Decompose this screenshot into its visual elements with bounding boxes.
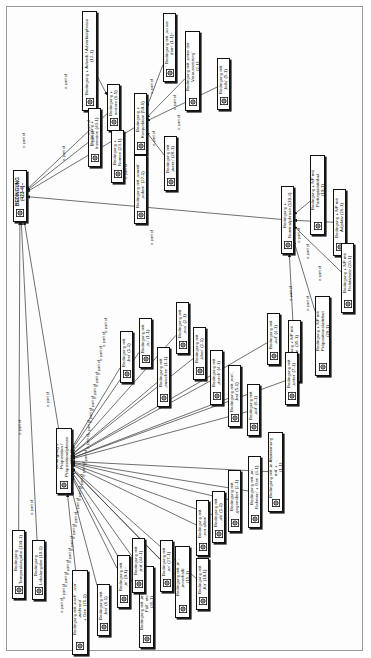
diagram-node[interactable]: Bedingung mit ‚aus‘ (2-1) (176, 302, 189, 354)
concept-node-icon (114, 170, 122, 178)
diagram-node[interactable]: Bedingung mit ‚so sei dem‘ (1-1)~ (163, 13, 176, 82)
edge-is-part-of (21, 222, 37, 540)
diagram-node[interactable]: Bedingung mit ‚für‘ (19-1) (196, 558, 209, 610)
concept-node-icon (319, 363, 327, 371)
node-label: Bedingung + Konjunktion (59-6) (135, 97, 145, 142)
diagram-node[interactable]: Bedingung mit ‚bei‘ (6-1) (97, 584, 110, 636)
diagram-node[interactable]: Bedingung mit ‚mit‘ (44-1) (132, 538, 145, 593)
concept-node-icon (86, 98, 94, 106)
edge-is-part-of (72, 412, 247, 459)
edge-is-part-of (27, 143, 88, 191)
diagram-node[interactable]: BEDINGUNG (423-4)~ (13, 170, 27, 222)
diagram-node[interactable]: Bedingung + Adverb / Adverbialphrase (12… (82, 11, 97, 111)
diagram-node[interactable]: Bedingung mit ‚von‘, ‚bei‘ (5-1) (228, 365, 241, 427)
diagram-node[interactable]: Bedingung mit ‚in‘, ‚innerhalb‘ (15-1) (175, 546, 190, 618)
edge-is-part-of (72, 398, 228, 457)
concept-node-icon (15, 586, 23, 594)
edge-is-part-of (24, 222, 58, 428)
concept-node-icon (272, 499, 280, 507)
edge-is-part-of (97, 76, 107, 95)
concept-node-icon (166, 69, 174, 77)
node-label: Bedingung mit ‚wenn‘ (28-1) (165, 140, 175, 178)
diagram-node[interactable]: Bedingung + andere (6-5) (107, 84, 120, 131)
diagram-node[interactable]: Bedingung mit ‚im Rahmen‘ + Gen. (4-1) (248, 456, 261, 528)
node-label: Bedingung mit ‚für‘ (19-1) (197, 562, 207, 597)
concept-node-icon (179, 605, 187, 613)
diagram-node[interactable]: Bedingung + Nomen (23-1) (111, 130, 124, 183)
diagram-node[interactable]: Bedingung + Präposition / Präpositionalp… (56, 428, 72, 494)
diagram-node[interactable]: Bedingung mit ‚falls‘ (5-1) (217, 58, 230, 110)
diagram-node[interactable]: Bedingung + NP mit Präpositionalattribut… (315, 296, 330, 376)
diagram-node[interactable]: Bedingung mit ‚auf‘ (6-1) (247, 384, 260, 436)
edge-is-part-of (72, 382, 157, 454)
diagram-node[interactable]: Bedingung mit ‚über‘ (2-1) (193, 327, 206, 380)
concept-node-icon (91, 154, 99, 162)
concept-node-icon (142, 355, 150, 363)
diagram-node[interactable]: Bedingung + NP mit Relativsatz (20-1) (341, 243, 354, 313)
diagram-node[interactable]: Bedingung mit ‚an‘ (27-1) (160, 540, 173, 592)
diagram-node[interactable]: Bedingung + NP mit Partizipialattribut (… (310, 155, 325, 235)
edge-is-part-of (289, 254, 293, 320)
node-label: Bedingung mit ‚bei‘ (1-1) (121, 335, 131, 370)
node-label: Bedingung mit ‚von‘, ‚bei‘ (5-1) (229, 369, 239, 414)
concept-node-icon (284, 241, 292, 249)
diagram-node[interactable]: Bedingung mit ‚in‘ (9-1)~ (117, 555, 130, 608)
node-label: Bedingung mit ‚aus‘ (2-1) (177, 306, 187, 341)
diagram-node[interactable]: Bedingung mit ‚vor allem‘ … (196, 500, 209, 556)
node-label: Bedingung mit ‚so sei dem‘ (1-1)~ (164, 17, 174, 69)
node-label: Bedingung mit ‚im Rahmen‘ + Gen. (4-1) (249, 460, 259, 515)
concept-node-icon (143, 635, 151, 643)
edge-is-part-of (294, 242, 315, 312)
node-label: Bedingung Lokalangabe (10-1) (33, 544, 43, 587)
diagram-node[interactable]: Bedingung mit ‚ab‘ (1-1) (212, 491, 225, 543)
diagram-node[interactable]: Bedingung mit ‚nach‘, ‚vor‘, ‚während‘ +… (72, 570, 88, 655)
diagram-node[interactable]: Bedingung Temporalangabe (139-1) (12, 530, 25, 599)
node-label: Bedingung + Nomen (23-1) (112, 134, 122, 170)
concept-node-icon (199, 543, 207, 551)
node-label: Bedingung mit ‚auf‘ (4-1) (268, 317, 278, 352)
diagram-node[interactable]: Bedingung mit ‚unter‘ (7-1) (285, 352, 298, 405)
diagram-node[interactable]: Bedingung mit ‚gegenüber‘ (2-1) (228, 470, 241, 532)
diagram-canvas: BEDINGUNG (423-4)~Bedingung + andere (6-… (0, 0, 371, 658)
diagram-node[interactable]: Bedingung mit ‚zu‘ (1-1) (139, 318, 152, 368)
concept-node-icon (189, 98, 197, 106)
diagram-node[interactable]: Bedingung mit ‚wenn‘ (28-1) (164, 136, 177, 191)
node-label: Bedingung + Nominalphrase (119-4) (282, 190, 292, 241)
diagram-node[interactable]: Bedingung + Konjunktion (59-6) (134, 93, 147, 155)
concept-node-icon (60, 481, 68, 489)
node-label: Bedingung mit ‚über‘ (2-1) (194, 331, 204, 367)
diagram-node[interactable]: Bedingung + Inversion (40-1) (88, 108, 101, 167)
node-label: Bedingung mit ‚mit‘ (44-1) (133, 542, 143, 580)
node-label: Bedingung mit ‚vor allem‘ … (197, 504, 207, 543)
diagram-node[interactable]: Bedingung mit ‚zwischen‘ (1-1) (157, 347, 170, 407)
concept-node-icon (250, 423, 258, 431)
node-label: Bedingung mit ‚an‘ (27-1) (161, 544, 171, 579)
diagram-node[interactable]: Bedingung mit ‚auf‘ (4-1) (267, 313, 280, 365)
diagram-node[interactable]: Bedingung mit ‚soweit‘, ‚sofern‘ (27-1) (134, 155, 147, 224)
concept-node-icon (135, 580, 143, 588)
concept-node-icon (35, 587, 43, 595)
node-label: Bedingung mit ‚in Abstimmung mit‘ + … (1… (268, 436, 283, 499)
edge-is-part-of (72, 472, 132, 556)
node-label: BEDINGUNG (423-4)~ (15, 174, 25, 209)
diagram-node[interactable]: Bedingung mit ‚in Abstimmung mit‘ + … (1… (268, 432, 283, 512)
node-label: Bedingung + NP mit Relativsatz (20-1) (342, 247, 352, 300)
diagram-node[interactable]: Bedingung Lokalangabe (10-1) (32, 540, 45, 600)
concept-node-icon (137, 211, 145, 219)
diagram-node[interactable]: Bedingung mit ‚unter der Voraussetzung‘ … (185, 31, 200, 111)
node-label: Bedingung mit ‚unter‘ (7-1) (286, 356, 296, 392)
node-label: Bedingung + NP mit Adjektiv (26-1) (334, 193, 344, 243)
diagram-node[interactable]: Bedingung + Nominalphrase (119-4) (281, 186, 294, 254)
node-label: Bedingung + Adverb / Adverbialphrase (12… (84, 15, 94, 98)
edge-is-part-of (294, 201, 310, 214)
diagram-node[interactable]: Bedingung mit ‚durch‘ (4-1) (210, 350, 223, 405)
node-label: Bedingung mit ‚in‘, ‚innerhalb‘ (15-1) (175, 550, 190, 605)
edge-is-part-of (72, 465, 196, 525)
edge-is-part-of (147, 65, 163, 107)
diagram-node[interactable]: Bedingung mit ‚bei‘ (1-1) (120, 331, 133, 383)
concept-node-icon (231, 519, 239, 527)
node-label: Bedingung + NP mit Präpositionalattribut… (315, 300, 330, 363)
edge-is-part-of (72, 464, 212, 515)
concept-node-icon (163, 579, 171, 587)
node-label: Bedingung mit ‚zu‘ (1-1) (140, 322, 150, 355)
